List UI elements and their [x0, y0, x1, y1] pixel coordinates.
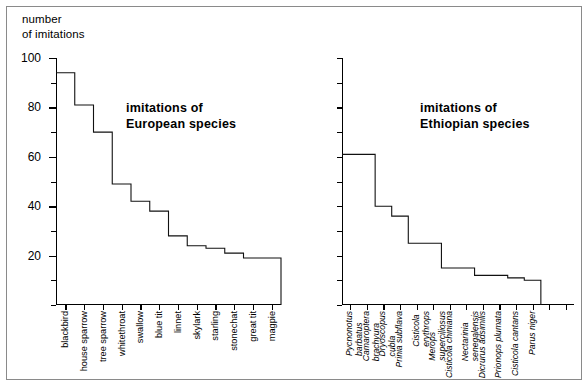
x-axis-label: great tit [248, 311, 258, 342]
x-axis-label: Prionops plumata [499, 244, 509, 311]
chart-panel-ethiopian: imitations of Ethiopian species Pycnonot… [300, 0, 588, 386]
x-axis-label: Cisticola chiniana [450, 244, 460, 311]
y-tick-60: 60 [49, 157, 56, 158]
y-tick-label-100: 100 [21, 52, 41, 64]
y-tick-20: 20 [49, 256, 56, 257]
x-axis-label: stonechat [229, 311, 239, 351]
plot-area-european: 20406080100 blackbirdhouse sparrowtree s… [56, 58, 281, 305]
y-tick-80: 80 [49, 107, 56, 108]
y-axis-caption: number of imitations [22, 12, 85, 42]
step-series-european [56, 58, 281, 305]
figure-container: number of imitations imitations of Europ… [0, 0, 588, 386]
x-axis-label: tree sparrow [98, 311, 108, 362]
x-axis-label: blackbird [60, 311, 70, 348]
x-axis-label-line: Prinia subflava [395, 311, 405, 367]
x-axis-label: Parus niger [533, 267, 543, 311]
chart-panel-european: number of imitations imitations of Europ… [0, 0, 300, 386]
x-axis-label: magpie [267, 311, 277, 341]
x-axis-label-line: Cisticola cantans [511, 311, 521, 376]
x-axis-label: whitethroat [117, 311, 127, 356]
y-tick-label-20: 20 [28, 250, 41, 262]
y-tick-label-60: 60 [28, 151, 41, 163]
x-axis-label-line: Cisticola chiniana [445, 311, 455, 378]
x-axis-label: Prinia subflava [400, 255, 410, 311]
x-axis-label: skylark [192, 311, 202, 340]
y-tick-40: 40 [49, 206, 56, 207]
x-axis-label-line: Parus niger [528, 311, 538, 355]
y-tick-100: 100 [49, 58, 56, 59]
y-tick-label-40: 40 [28, 200, 41, 212]
x-axis-label: blue tit [154, 311, 164, 338]
y-tick-label-80: 80 [28, 101, 41, 113]
x-axis-label-line: Dicrurus adsimilis [478, 311, 488, 378]
x-axis-label-line: Prionops plumata [495, 311, 505, 378]
x-axis-label: starling [210, 311, 220, 341]
x-axis-label: linnet [173, 311, 183, 333]
x-axis-label: Dicrurus adsimilis [483, 244, 493, 311]
plot-area-ethiopian: PycnonotusbarbatusCamaropterabrachyuraDr… [342, 58, 574, 305]
x-axis-label: house sparrow [79, 311, 89, 371]
x-axis-label: swallow [135, 311, 145, 343]
x-axis-label: Cisticola cantans [516, 246, 526, 311]
x-axis-labels-ethiopian: PycnonotusbarbatusCamaropterabrachyuraDr… [342, 305, 574, 385]
x-axis-labels-european: blackbirdhouse sparrowtree sparrowwhitet… [56, 305, 281, 385]
